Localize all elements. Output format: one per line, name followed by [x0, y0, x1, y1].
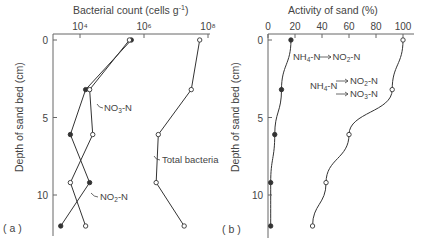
data-point [189, 87, 193, 91]
data-point [279, 87, 283, 91]
data-point [197, 38, 201, 42]
data-point [182, 224, 186, 228]
panel-a-xlabel: Bacterial count (cells g-1) [73, 4, 188, 16]
x-tick-label: 20 [289, 21, 301, 32]
annotation-no3: NO3-N [104, 102, 132, 114]
data-point [154, 180, 158, 184]
data-point [68, 132, 72, 136]
panel-a-ylabel: Depth of sand bed (cm) [13, 62, 25, 172]
data-point [127, 38, 131, 42]
data-point [87, 87, 91, 91]
data-point [59, 224, 63, 228]
series-line [156, 40, 200, 226]
y-tick-label: 10 [37, 190, 49, 201]
annotation-total-bacteria: Total bacteria [162, 154, 219, 165]
y-tick-label: 5 [257, 113, 263, 124]
x-tick-label: 40 [316, 21, 328, 32]
annotation-nh4-no2-no3-c: NO3-N [350, 88, 378, 100]
x-tick-label: 10⁸ [200, 21, 215, 32]
annotation-no2: NO2-N [100, 191, 128, 203]
annotation-nh4-no2-no3-a: NH4-N [310, 80, 338, 92]
data-point [310, 224, 314, 228]
data-point [390, 87, 394, 91]
arrow-3 [336, 92, 348, 96]
panel-a: Bacterial count (cells g-1) 051010⁴10⁶10… [3, 4, 219, 236]
annotation-nh4-no2-no3-b: NO2-N [350, 75, 378, 87]
figure: Bacterial count (cells g-1) 051010⁴10⁶10… [0, 0, 422, 244]
data-point [269, 180, 273, 184]
y-tick-label: 0 [42, 35, 48, 46]
data-point [289, 38, 293, 42]
data-point [91, 132, 95, 136]
y-tick-label: 10 [252, 190, 264, 201]
panel-b: Activity of sand (%) 0510020406080100 De… [222, 4, 414, 238]
data-point [401, 38, 405, 42]
data-point [87, 180, 91, 184]
arrow-1 [319, 55, 331, 59]
x-tick-label: 80 [370, 21, 382, 32]
data-point [273, 132, 277, 136]
x-tick-label: 0 [265, 21, 271, 32]
x-tick-label: 10⁴ [72, 21, 87, 32]
data-point [156, 132, 160, 136]
panel-b-ylabel: Depth of sand bed (cm) [229, 62, 241, 172]
y-tick-label: 5 [42, 113, 48, 124]
arrow-2 [336, 79, 348, 83]
x-tick-label: 10⁶ [136, 21, 151, 32]
panel-b-xlabel: Activity of sand (%) [288, 4, 378, 16]
data-point [347, 132, 351, 136]
data-point [68, 180, 72, 184]
x-tick-label: 60 [343, 21, 355, 32]
panel-b-label: ( b ) [222, 223, 241, 235]
annotation-no3-leader [97, 104, 103, 108]
y-tick-label: 0 [257, 35, 263, 46]
x-tick-label: 100 [395, 21, 412, 32]
annotation-no2-leader [91, 193, 98, 197]
panel-a-label: ( a ) [3, 222, 22, 234]
series-line [313, 40, 403, 226]
data-point [324, 180, 328, 184]
data-point [83, 224, 87, 228]
data-point [269, 224, 273, 228]
